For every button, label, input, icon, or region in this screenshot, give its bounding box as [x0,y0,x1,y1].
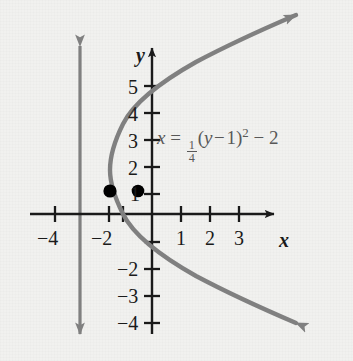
fraction-numerator: 1 [187,139,197,151]
equation-fraction: 1 4 [187,139,197,165]
vertex-point [103,184,116,197]
x-tick-label-3: 3 [234,228,244,248]
equation-inner-constant: 1 [226,127,236,148]
x-tick-label-neg4: −4 [37,228,58,248]
x-tick-label-1: 1 [176,228,186,248]
y-tick-label-1: 1 [130,184,140,204]
fraction-denominator: 4 [187,151,197,164]
parabola-figure: −4 −2 1 2 3 5 4 3 2 1 −2 −3 −4 x y x = 1… [0,0,353,361]
equation-variable: y [204,127,212,148]
x-tick-label-2: 2 [205,228,215,248]
y-tick-label-3: 3 [128,131,138,151]
x-axis-label: x [279,230,289,250]
equation-trailing-minus: − [253,127,264,148]
equation-trailing-constant: 2 [269,127,279,148]
equation-equals: = [170,127,181,148]
y-axis-label: y [136,45,145,65]
equation-lhs: x [157,127,165,148]
x-tick-label-neg2: −2 [91,228,112,248]
y-tick-label-2: 2 [128,158,138,178]
parabola-plot-canvas [0,0,353,361]
y-tick-label-4: 4 [128,104,138,124]
y-tick-label-5: 5 [128,77,138,97]
equation-inner-minus: − [214,127,225,148]
y-tick-label-neg3: −3 [117,286,138,306]
y-tick-label-neg2: −2 [117,259,138,279]
equation-annotation: x = 1 4 (y − 1)2 − 2 [157,128,278,165]
equation-exponent: 2 [242,125,248,140]
y-tick-label-neg4: −4 [117,313,138,333]
